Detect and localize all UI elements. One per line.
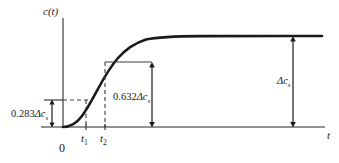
annotation-0632-subscript: s bbox=[147, 97, 150, 105]
annotation-0283-coefficient: 0.283 bbox=[11, 108, 35, 119]
annotation-0632-symbol: Δc bbox=[136, 91, 148, 102]
annotation-0283-symbol: Δc bbox=[34, 108, 46, 119]
x-tick-label-t1-subscript: 1 bbox=[84, 138, 88, 147]
y-axis-label: c(t) bbox=[43, 5, 59, 18]
annotation-total-subscript: s bbox=[288, 81, 291, 89]
origin-label: 0 bbox=[59, 141, 65, 155]
figure-canvas: c(t) t 0 t1 t2 0.283Δcs 0.632Δcs Δcs bbox=[0, 0, 339, 163]
x-axis-label: t bbox=[327, 129, 331, 141]
step-response-figure: c(t) t 0 t1 t2 0.283Δcs 0.632Δcs Δcs bbox=[0, 0, 339, 163]
arrow-head-up-0632 bbox=[149, 62, 155, 68]
annotation-0632-coefficient: 0.632 bbox=[113, 91, 137, 102]
annotation-label-0283: 0.283Δcs bbox=[11, 108, 48, 122]
x-tick-label-t1: t1 bbox=[81, 132, 88, 147]
x-tick-label-t2-subscript: 2 bbox=[103, 138, 107, 147]
annotation-total-symbol: Δc bbox=[276, 75, 288, 86]
annotation-label-total: Δcs bbox=[276, 75, 291, 89]
annotation-0283-subscript: s bbox=[45, 114, 48, 122]
annotation-label-0632: 0.632Δcs bbox=[113, 91, 150, 105]
x-tick-label-t2: t2 bbox=[100, 132, 107, 147]
